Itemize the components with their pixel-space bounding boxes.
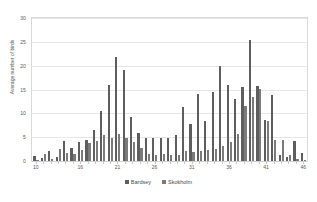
bar (145, 138, 147, 161)
y-axis-tick-label: 0 (23, 159, 26, 164)
bar (244, 106, 246, 161)
bar (70, 148, 72, 161)
x-axis-tickmark (259, 161, 260, 164)
bar (175, 135, 177, 161)
x-axis-tickmark (95, 161, 96, 164)
x-axis-tick-label: 36 (226, 164, 232, 170)
bar-group (210, 18, 217, 161)
bar-group (84, 18, 91, 161)
bar (252, 97, 254, 161)
bar (282, 140, 284, 161)
bar (230, 142, 232, 161)
y-axis-title: Average number of birds (9, 21, 15, 113)
bar (96, 141, 98, 161)
bar (78, 142, 80, 161)
x-axis-tickmark (110, 161, 111, 164)
bar (222, 146, 224, 161)
bar-group (173, 18, 180, 161)
x-axis-tickmark (65, 161, 66, 164)
bar-group (69, 18, 76, 161)
bar (118, 134, 120, 161)
y-axis-tick-label: 30 (20, 16, 26, 21)
x-axis-tickmark (162, 161, 163, 164)
bar (125, 138, 127, 161)
bar-group (277, 18, 284, 161)
bar (63, 141, 65, 161)
bar (197, 94, 199, 161)
bar (185, 151, 187, 161)
bars-layer (32, 18, 307, 161)
x-axis-tick-label: 10 (33, 164, 39, 170)
x-axis-tickmark (244, 161, 245, 164)
bar-group (203, 18, 210, 161)
bar (227, 85, 229, 161)
x-axis-tickmark (184, 161, 185, 164)
bar (249, 40, 251, 161)
bar (241, 87, 243, 161)
bar (111, 138, 113, 161)
bar (85, 140, 87, 161)
x-axis-tick-label: 26 (152, 164, 158, 170)
x-axis-tickmark (132, 161, 133, 164)
x-axis-tickmark (207, 161, 208, 164)
bar (123, 70, 125, 161)
bar-group (255, 18, 262, 161)
bar (48, 151, 50, 161)
bar (100, 111, 102, 161)
bar-group (143, 18, 150, 161)
x-axis-tickmark (177, 161, 178, 164)
bar (237, 134, 239, 161)
bar (200, 151, 202, 161)
bar (207, 150, 209, 161)
bar-group (32, 18, 39, 161)
x-axis-tickmark (236, 161, 237, 164)
bar (215, 149, 217, 161)
bar-group (225, 18, 232, 161)
bar-group (166, 18, 173, 161)
bar-group (99, 18, 106, 161)
y-axis-tick-label: 15 (20, 87, 26, 92)
bar (219, 66, 221, 161)
bar-group (300, 18, 307, 161)
x-axis-tickmark (51, 161, 52, 164)
bar (108, 85, 110, 161)
x-axis-tick-label: 41 (263, 164, 269, 170)
bar-group (158, 18, 165, 161)
bar (59, 149, 61, 161)
bar (140, 148, 142, 161)
bar (264, 120, 266, 161)
bar-chart: 302520151050 Average number of birds 101… (0, 0, 317, 202)
bar (274, 140, 276, 161)
x-axis-tickmark (43, 161, 44, 164)
bar (212, 92, 214, 161)
bar (73, 154, 75, 161)
y-axis-tick-label: 20 (20, 63, 26, 68)
bar (88, 143, 90, 161)
bar-group (262, 18, 269, 161)
x-axis-tick-label: 16 (78, 164, 84, 170)
x-axis-tickmark (125, 161, 126, 164)
x-axis-tickmark (214, 161, 215, 164)
bar (133, 142, 135, 161)
x-axis-tick-label: 46 (301, 164, 307, 170)
bar-group (77, 18, 84, 161)
legend-item[interactable]: Skokholm (162, 179, 192, 185)
x-axis-tickmark (58, 161, 59, 164)
bar (130, 117, 132, 161)
bar-group (136, 18, 143, 161)
bar-group (121, 18, 128, 161)
legend-item[interactable]: Bardsey (125, 179, 151, 185)
x-axis-tickmark (288, 161, 289, 164)
bar (259, 89, 261, 161)
bar (204, 121, 206, 161)
x-axis-tickmark (281, 161, 282, 164)
bar-group (196, 18, 203, 161)
x-axis: 1016212631364146 (32, 164, 307, 174)
bar-group (114, 18, 121, 161)
x-axis-tickmark (140, 161, 141, 164)
x-axis-tick-label: 31 (189, 164, 195, 170)
bar-group (54, 18, 61, 161)
bar-group (129, 18, 136, 161)
bar (163, 154, 165, 161)
bar (93, 130, 95, 161)
